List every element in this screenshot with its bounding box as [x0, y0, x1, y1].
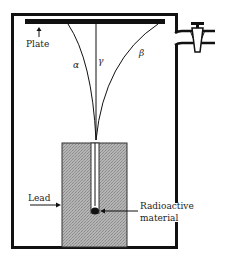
lead-block	[62, 143, 127, 247]
radioactive-label-line1: Radioactive	[140, 201, 194, 211]
plate	[25, 19, 165, 24]
beta-label: β	[138, 48, 144, 58]
valve-outlet	[175, 22, 215, 52]
lead-label: Lead	[28, 193, 51, 203]
plate-label: Plate	[26, 39, 49, 49]
gamma-label: γ	[98, 56, 104, 66]
plate-pointer	[37, 27, 42, 37]
radioactive-label-line2: material	[140, 213, 178, 223]
radiation-diagram: Plate α γ β Lead Radioactive material	[0, 0, 226, 262]
beta-ray	[96, 24, 158, 140]
radioactive-source	[91, 208, 99, 215]
alpha-ray	[68, 24, 96, 140]
alpha-label: α	[73, 60, 79, 70]
rays	[68, 24, 158, 140]
stopcock-icon	[190, 22, 205, 52]
lead-pointer	[30, 203, 61, 208]
